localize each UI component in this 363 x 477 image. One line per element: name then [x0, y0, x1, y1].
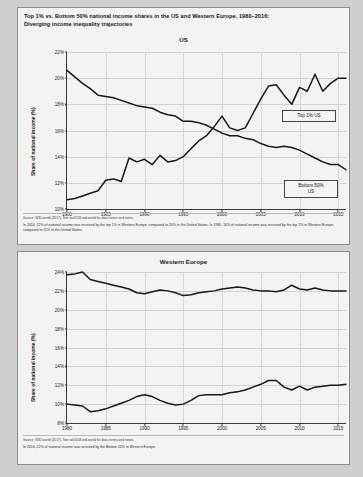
callout-top1-us: Top 1% US [282, 110, 336, 122]
y-axis-label-us: Share of national income (%) [30, 107, 36, 176]
y-tick-label: 14% [55, 154, 64, 159]
x-tick-label: 2015 [333, 426, 343, 431]
chart-heading-us: US [18, 36, 349, 43]
y-tick-label: 18% [55, 102, 64, 107]
document-page: Top 1% vs. Bottom 50% national income sh… [0, 0, 363, 477]
explanatory-note-us: In 2016, 12% of national income was rece… [23, 223, 344, 232]
y-tick-label: 10% [55, 402, 64, 407]
y-tick-label: 24% [55, 270, 64, 275]
x-tick-label: 2010 [294, 426, 304, 431]
y-tick-label: 12% [55, 383, 64, 388]
y-tick-label: 22% [55, 50, 64, 55]
figure-western-europe: Western Europe Share of national income … [17, 251, 350, 465]
plot-area-western-europe: 8%10%12%14%16%18%20%22%24%19801985199019… [66, 272, 346, 424]
document-title-line1: Top 1% vs. Bottom 50% national income sh… [24, 13, 269, 19]
x-tick-label: 1985 [101, 426, 111, 431]
figure-us: Top 1% vs. Bottom 50% national income sh… [17, 7, 350, 245]
chart-heading-western-europe: Western Europe [18, 258, 349, 265]
y-tick-label: 20% [55, 307, 64, 312]
series-line [67, 272, 346, 296]
y-tick-label: 18% [55, 326, 64, 331]
callout-bottom50-us: Bottom 50% US [284, 180, 338, 198]
y-tick-label: 12% [55, 180, 64, 185]
divider-us [23, 213, 344, 214]
x-tick-label: 1980 [62, 426, 72, 431]
explanatory-note-western-europe: In 2016, 22% of national income was rece… [23, 445, 344, 450]
divider-western-europe [23, 435, 344, 436]
y-tick-label: 22% [55, 288, 64, 293]
x-tick-label: 2005 [256, 426, 266, 431]
plot-frame-western-europe: 8%10%12%14%16%18%20%22%24%19801985199019… [66, 272, 346, 424]
y-tick-label: 20% [55, 76, 64, 81]
x-tick-label: 1990 [139, 426, 149, 431]
y-tick-label: 14% [55, 364, 64, 369]
y-axis-label-western-europe: Share of national income (%) [30, 333, 36, 402]
source-note-us: Source: WID.world (2017). See wir2018.wi… [23, 216, 344, 221]
document-title: Top 1% vs. Bottom 50% national income sh… [24, 12, 343, 28]
y-tick-label: 16% [55, 345, 64, 350]
series-line [67, 381, 346, 412]
source-note-western-europe: Source: WID.world (2017). See wir2018.wi… [23, 438, 344, 443]
series-layer [67, 272, 346, 423]
x-tick-label: 2000 [217, 426, 227, 431]
y-tick-label: 16% [55, 128, 64, 133]
x-tick-label: 1995 [178, 426, 188, 431]
document-title-line2: Diverging income inequality trajectories [24, 21, 132, 27]
